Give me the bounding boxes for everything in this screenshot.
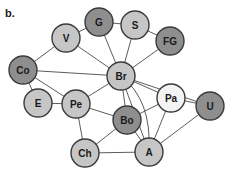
node-pa: Pa [157,84,185,112]
node-label: FG [163,36,177,47]
node-bo: Bo [113,106,141,134]
node-fg: FG [156,27,184,55]
node-label: A [145,147,152,158]
node-ch: Ch [71,139,99,167]
node-label: Bo [120,115,133,126]
node-label: G [95,17,103,28]
node-label: Br [115,71,126,82]
node-v: V [52,24,80,52]
node-u: U [196,92,224,120]
node-pe: Pe [62,90,90,118]
node-label: Pa [165,93,178,104]
node-e: E [24,89,52,117]
network-diagram: VGSFGCoBrPaUEPeBoChA [0,0,228,174]
node-label: U [206,101,213,112]
nodes-layer: VGSFGCoBrPaUEPeBoChA [9,8,224,167]
node-label: E [35,98,42,109]
node-br: Br [107,62,135,90]
node-a: A [135,138,163,166]
node-label: Ch [78,148,91,159]
node-g: G [85,8,113,36]
node-label: Co [16,65,29,76]
node-label: Pe [70,99,83,110]
node-label: V [63,33,70,44]
edge-Co-Br [23,70,121,76]
node-co: Co [9,56,37,84]
node-label: S [132,20,139,31]
node-s: S [121,11,149,39]
